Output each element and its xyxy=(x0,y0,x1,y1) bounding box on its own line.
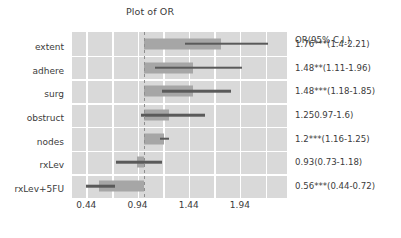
annotation-nodes: 1.2***(1.16-1.25) xyxy=(295,134,370,144)
grid-line-horizontal xyxy=(72,151,287,153)
reference-line xyxy=(144,32,145,198)
y-axis-label-nodes: nodes xyxy=(37,137,64,147)
grid-line-horizontal xyxy=(72,174,287,176)
x-axis-tick-label: 1.94 xyxy=(230,200,250,210)
annotation-rxlev-5fu: 0.56***(0.44-0.72) xyxy=(295,181,375,191)
annotation-adhere: 1.48**(1.11-1.96) xyxy=(295,63,371,73)
confidence-interval-whisker xyxy=(86,185,115,188)
confidence-interval-whisker xyxy=(141,114,206,117)
y-axis-label-adhere: adhere xyxy=(32,66,64,76)
chart-title: Plot of OR xyxy=(0,6,300,17)
grid-line-horizontal xyxy=(72,79,287,81)
plot-panel xyxy=(72,32,287,198)
annotation-extent: 1.76***(1.4-2.21) xyxy=(295,39,370,49)
y-axis-label-extent: extent xyxy=(35,42,64,52)
confidence-interval-whisker xyxy=(160,137,169,140)
x-axis-tick-label: 0.44 xyxy=(76,200,96,210)
confidence-interval-whisker xyxy=(116,161,162,164)
x-axis-ticks: 0.440.941.441.94 xyxy=(72,200,287,216)
annotation-rxlev: 0.93(0.73-1.18) xyxy=(295,157,362,167)
annotation-surg: 1.48***(1.18-1.85) xyxy=(295,86,375,96)
annotation-obstruct: 1.250.97-1.6) xyxy=(295,110,353,120)
confidence-interval-whisker xyxy=(162,90,231,93)
confidence-interval-whisker xyxy=(185,43,268,46)
x-axis-tick-label: 0.94 xyxy=(127,200,147,210)
y-axis-label-rxlev-5fu: rxLev+5FU xyxy=(14,184,64,194)
confidence-interval-whisker xyxy=(155,66,242,69)
forest-plot-figure: Plot of OR extentadheresurgobstructnodes… xyxy=(0,0,401,238)
y-axis-label-obstruct: obstruct xyxy=(27,113,64,123)
x-axis-tick-label: 1.44 xyxy=(179,200,199,210)
y-axis-label-surg: surg xyxy=(44,89,64,99)
grid-line-horizontal xyxy=(72,56,287,58)
grid-line-horizontal xyxy=(72,127,287,129)
grid-line-horizontal xyxy=(72,103,287,105)
y-axis-label-rxlev: rxLev xyxy=(39,160,64,170)
